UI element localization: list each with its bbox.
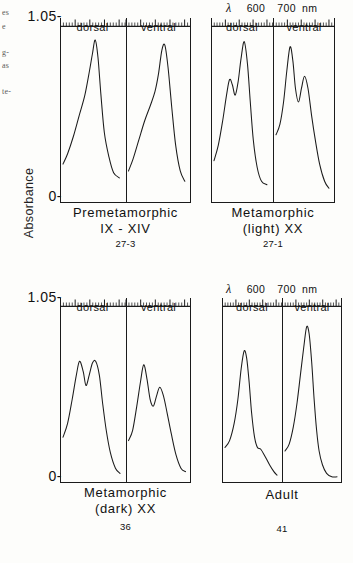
spectrum-trace-dorsal [63,360,120,473]
spectrum-trace-ventral [276,47,329,189]
margin-fragment: as [2,61,9,70]
spectrum-trace-dorsal [63,40,119,178]
caption-metamorphic-dark: Metamorphic (dark) XX 36 [52,485,199,534]
spectrum-trace-dorsal [214,42,267,185]
caption-specimen: 41 [215,522,349,536]
y-tick-top-row1: 1.05- [18,8,62,24]
caption-specimen: 27-1 [205,237,341,251]
x-axis-header-top: λ 600 700 nm [226,1,317,16]
spectra-curves [60,298,191,483]
x-tick-600-bottom: 600 [247,283,265,295]
caption-specimen: 36 [52,520,199,534]
caption-line2: (light) XX [205,221,341,237]
margin-fragment: es [2,8,9,17]
figure-canvas: eseg-aste- Absorbance 1.05- 0- 1.05- 0- … [0,0,353,563]
x-tick-700-top: 700 [277,2,295,14]
margin-fragment: te- [2,87,11,96]
caption-line1: Metamorphic [52,485,199,501]
caption-premetamorphic: Premetamorphic IX - XIV 27-3 [52,205,199,251]
panel-adult: dorsal ventral [222,298,342,483]
caption-specimen: 27-3 [52,237,199,251]
spectra-curves [211,18,335,203]
lambda-symbol: λ [226,1,232,16]
caption-line1: Adult [215,487,349,503]
caption-line1: Metamorphic [205,205,341,221]
margin-fragment: g- [2,48,9,57]
lambda-symbol: λ [226,282,232,297]
y-tick-top-row2: 1.05- [18,289,62,305]
x-axis-header-bottom: λ 600 700 nm [226,282,317,297]
x-unit-bottom: nm [302,283,317,295]
caption-metamorphic-light: Metamorphic (light) XX 27-1 [205,205,341,251]
caption-line1: Premetamorphic [52,205,199,221]
margin-fragment: e [2,22,6,31]
spectrum-trace-ventral [285,326,337,477]
x-unit-top: nm [302,2,317,14]
panel-premetamorphic: dorsal ventral [60,18,191,203]
y-tick-bottom-row2: 0- [18,468,62,484]
spectra-curves [60,18,191,203]
panel-metamorphic-dark: dorsal ventral [60,298,191,483]
spectrum-trace-ventral [129,365,186,472]
spectra-curves [222,298,342,483]
spectrum-trace-ventral [129,44,185,181]
y-tick-bottom-row1: 0- [18,188,62,204]
x-tick-600-top: 600 [247,2,265,14]
caption-adult: Adult 41 [215,487,349,536]
spectrum-trace-dorsal [225,351,277,476]
panel-metamorphic-light: dorsal ventral [211,18,335,203]
x-tick-700-bottom: 700 [277,283,295,295]
caption-line2: IX - XIV [52,221,199,237]
caption-line2: (dark) XX [52,501,199,517]
